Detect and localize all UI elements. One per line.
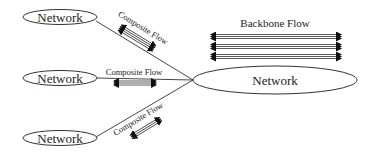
network-mid-label: Network <box>37 71 83 86</box>
link-mid-to-core <box>97 78 193 80</box>
network-flow-diagram: Network Network Network Network Composit… <box>0 0 382 158</box>
node-core-network[interactable]: Network <box>193 66 357 94</box>
backbone-flow-label: Backbone Flow <box>240 17 309 29</box>
backbone-flow: Backbone Flow <box>211 17 341 59</box>
node-network-bottom[interactable]: Network <box>23 131 97 146</box>
network-bottom-label: Network <box>37 131 83 146</box>
backbone-bundle-1 <box>211 35 341 39</box>
composite-flow-top-label: Composite Flow <box>117 9 171 47</box>
core-network-label: Network <box>252 73 298 88</box>
network-top-label: Network <box>37 10 83 25</box>
backbone-bundle-3 <box>211 55 341 59</box>
node-network-mid[interactable]: Network <box>23 71 97 86</box>
composite-flow-mid: Composite Flow <box>106 67 163 85</box>
composite-flow-mid-arrows <box>114 81 156 85</box>
backbone-bundle-2 <box>211 45 341 49</box>
node-network-top[interactable]: Network <box>23 10 97 25</box>
composite-flow-mid-label: Composite Flow <box>106 67 163 77</box>
